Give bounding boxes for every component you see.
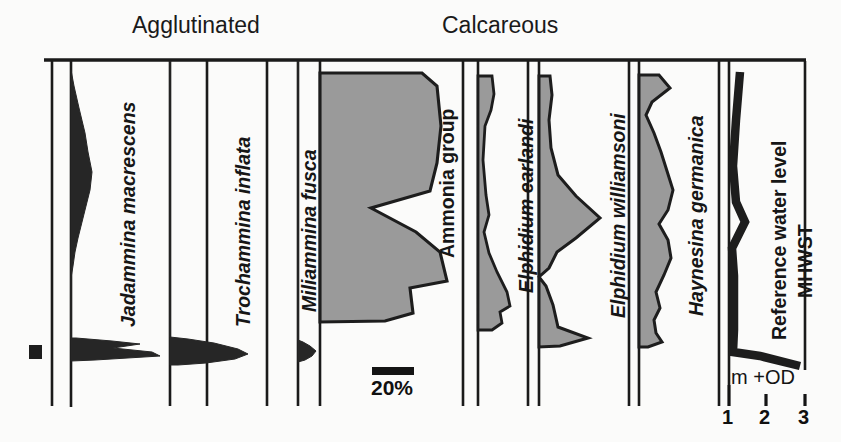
taxon-label-jadammina-macrescens: Jadammina macrescens	[117, 102, 140, 327]
taxon-label-elphidium-williamsoni: Elphidium williamsoni	[607, 113, 630, 318]
curve-elphidium-earlandi	[478, 76, 510, 330]
axis-unit-m-od: m +OD	[731, 366, 795, 389]
taxon-label-miliammina-fusca: Miliammina fusca	[298, 149, 321, 312]
group-header-calcareous: Calcareous	[442, 12, 558, 39]
taxon-label-trochammina-inflata: Trochammina inflata	[232, 137, 255, 327]
axis-tick-1: 1	[722, 406, 733, 429]
curve-jadammina-macrescens	[71, 70, 160, 361]
scale-bar-label: 20%	[371, 376, 413, 400]
taxon-label-ammonia-group: Ammonia group	[437, 109, 458, 259]
reference-water-level-label-line2: MHWST	[795, 224, 816, 298]
sample-marker-square	[29, 345, 42, 359]
foraminifera-diagram: Agglutinated Calcareous Jadammina macres…	[0, 0, 841, 442]
taxon-label-elphidium-earlandi: Elphidium earlandi	[515, 119, 538, 293]
axis-tick-3: 3	[798, 406, 809, 429]
axis-tick-2: 2	[759, 406, 770, 429]
reference-water-level-label-line1: Reference water level	[769, 141, 790, 340]
scale-bar-20-percent	[372, 367, 414, 375]
group-header-agglutinated: Agglutinated	[132, 12, 260, 39]
taxon-label-haynesina-germanica: Haynesina germanica	[685, 115, 708, 316]
curve-ammonia-group	[320, 73, 447, 322]
curve-haynesina-germanica	[639, 75, 673, 347]
curve-elphidium-williamsoni	[539, 76, 600, 347]
